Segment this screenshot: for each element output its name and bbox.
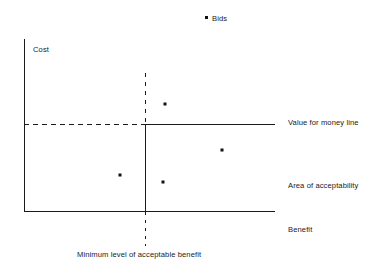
value-for-money-diagram: Bids Cost Benefit Value for money line A… (0, 0, 385, 275)
annotation-area-of-acceptability: Area of acceptability (288, 181, 358, 190)
y-axis-label-cost: Cost (33, 45, 49, 54)
diagram-canvas (0, 0, 385, 275)
legend-bids-label: Bids (212, 14, 227, 23)
annotation-minimum-level: Minimum level of acceptable benefit (77, 250, 201, 259)
x-axis-label-benefit: Benefit (288, 225, 312, 234)
data-point-bid-3 (119, 174, 122, 177)
bids-marker-icon (205, 16, 208, 19)
data-point-bid-2 (221, 149, 224, 152)
data-point-bid-1 (164, 103, 167, 106)
legend-bids: Bids (205, 14, 227, 23)
annotation-value-for-money-line: Value for money line (288, 118, 359, 127)
data-point-bid-4 (162, 181, 165, 184)
